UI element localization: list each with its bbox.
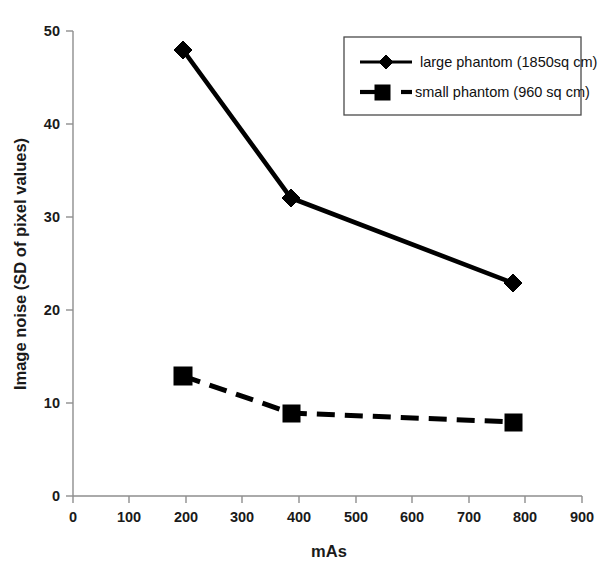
x-tick-label-400: 400	[287, 509, 311, 525]
data-point-small-200	[174, 367, 192, 385]
x-tick-label-700: 700	[457, 509, 481, 525]
y-tick-label-30: 30	[44, 209, 60, 225]
chart-page: 0 10 20 30 40 50 0 100 200 300 400	[0, 0, 611, 578]
x-axis-ticks	[73, 496, 582, 503]
x-axis-tick-labels: 0 100 200 300 400 500 600 700 800 900	[69, 509, 594, 525]
x-tick-label-300: 300	[230, 509, 254, 525]
x-tick-label-500: 500	[344, 509, 368, 525]
legend-label-large-phantom: large phantom (1850sq cm)	[420, 54, 597, 70]
data-point-large-800	[504, 274, 522, 292]
y-tick-label-40: 40	[44, 116, 60, 132]
x-tick-label-800: 800	[513, 509, 537, 525]
line-chart: 0 10 20 30 40 50 0 100 200 300 400	[0, 0, 611, 578]
y-tick-label-20: 20	[44, 302, 60, 318]
legend: large phantom (1850sq cm) small phantom …	[344, 37, 597, 115]
x-tick-label-0: 0	[69, 509, 77, 525]
square-marker-icon	[375, 85, 390, 100]
x-tick-label-200: 200	[174, 509, 198, 525]
legend-box	[344, 37, 581, 115]
y-tick-label-50: 50	[44, 23, 60, 39]
x-tick-label-900: 900	[570, 509, 594, 525]
y-tick-label-10: 10	[44, 395, 60, 411]
series-small-phantom-line	[183, 376, 513, 422]
x-tick-label-600: 600	[400, 509, 424, 525]
legend-label-small-phantom: small phantom (960 sq cm)	[415, 84, 590, 100]
y-axis-tick-labels: 0 10 20 30 40 50	[44, 23, 60, 504]
data-point-small-400	[283, 405, 300, 422]
y-axis-title: Image noise (SD of pixel values)	[11, 138, 29, 390]
y-axis-ticks	[66, 31, 73, 496]
x-tick-label-100: 100	[117, 509, 141, 525]
series-small-phantom	[174, 367, 522, 431]
y-tick-label-0: 0	[52, 488, 60, 504]
data-point-small-800	[505, 414, 522, 431]
x-axis-title: mAs	[311, 542, 347, 560]
